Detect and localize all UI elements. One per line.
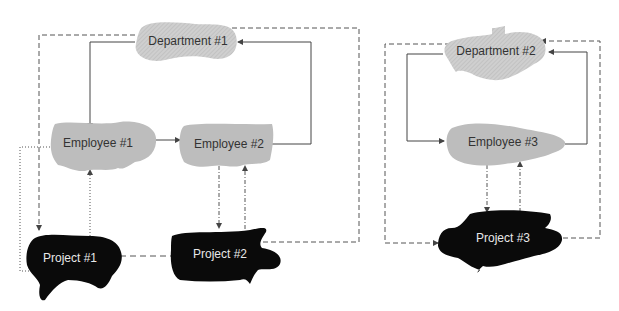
node-employee-2[interactable]: Employee #2 (179, 124, 273, 167)
node-project-2[interactable]: Project #2 (171, 228, 281, 284)
department-label: Department #2 (456, 44, 536, 58)
node-department-1[interactable]: Department #1 (136, 22, 237, 61)
project-label: Project #1 (43, 251, 97, 265)
node-employee-1[interactable]: Employee #1 (51, 122, 156, 172)
node-project-3[interactable]: Project #3 (438, 210, 562, 272)
project-shape (26, 235, 121, 301)
employee-label: Employee #2 (194, 137, 264, 151)
employee-label: Employee #3 (468, 135, 538, 149)
edge-dept1-emp1 (90, 42, 135, 128)
edge-dept2-proj3 (385, 44, 450, 243)
node-employee-3[interactable]: Employee #3 (447, 123, 565, 165)
er-diagram: Department #1 Employee #1 Employee #2 Pr… (0, 0, 619, 311)
edge-dept2-emp3 (407, 54, 444, 141)
department-label: Department #1 (148, 34, 228, 48)
project-label: Project #2 (193, 247, 247, 261)
project-label: Project #3 (476, 231, 530, 245)
edge-emp3-dept2 (549, 52, 587, 144)
employee-label: Employee #1 (63, 136, 133, 150)
node-project-1[interactable]: Project #1 (26, 235, 121, 301)
node-department-2[interactable]: Department #2 (444, 26, 545, 80)
